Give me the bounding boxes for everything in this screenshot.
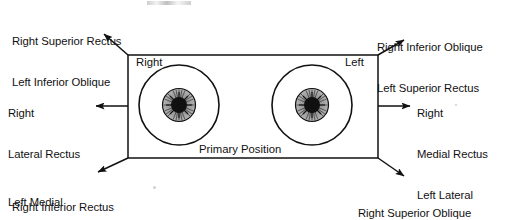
box-left-label: Left <box>345 56 364 69</box>
scan-artifact-top <box>147 1 191 5</box>
label-down-left: Right Superior Oblique Left Inferior Rec… <box>358 180 471 220</box>
label-line: Right Inferior Rectus <box>12 201 118 215</box>
label-line: Right <box>417 107 488 121</box>
scan-speck <box>153 186 156 189</box>
label-line: Right Superior Rectus <box>12 35 121 49</box>
label-line: Right Inferior Oblique <box>377 41 483 55</box>
primary-position-label: Primary Position <box>199 143 281 156</box>
down-right-arrow <box>378 158 404 176</box>
label-line: Lateral Rectus <box>8 148 80 162</box>
right-eye <box>139 65 219 145</box>
label-down-right: Right Inferior Rectus Left Superior Obli… <box>12 174 118 220</box>
box-right-label: Right <box>136 56 162 69</box>
label-line: Right Superior Oblique <box>358 207 471 220</box>
scan-speck <box>455 104 457 106</box>
label-line: Medial Rectus <box>417 148 488 162</box>
label-line: Right <box>8 107 80 121</box>
down-left-arrow <box>98 158 128 172</box>
eye-muscle-diagram: Right Left Primary Position Right Superi… <box>0 0 507 220</box>
left-eye <box>272 65 352 145</box>
